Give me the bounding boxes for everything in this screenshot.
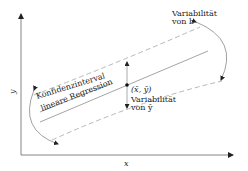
x-axis-label: x bbox=[124, 159, 129, 168]
y-axis-label: y bbox=[8, 89, 17, 95]
regression-diagram: y x Konfidenzinterval lineare Regression… bbox=[0, 0, 248, 171]
variability-b-arc bbox=[196, 22, 227, 80]
variability-y-label-line2: von ȳ bbox=[130, 103, 153, 112]
mean-point bbox=[125, 83, 129, 87]
variability-b-label-line2: von b bbox=[171, 17, 194, 26]
mean-point-label: (x̄, ȳ) bbox=[131, 85, 151, 94]
